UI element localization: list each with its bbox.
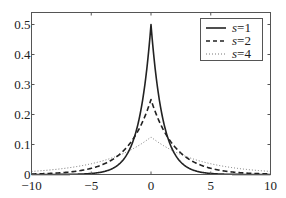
y-tick-label: 0.3 (14, 77, 30, 92)
y-tick-label: 0 (24, 167, 31, 182)
x-tick-label: −5 (84, 178, 98, 193)
y-tick-label: 0.5 (14, 17, 30, 32)
legend: s=1 s=2 s=4 (201, 19, 263, 62)
y-tick-label: 0.2 (14, 107, 30, 122)
series-s4-line (32, 137, 271, 171)
y-tick-label: 0.4 (14, 47, 31, 62)
x-tick-label: 5 (208, 178, 215, 193)
x-tick-label: 0 (148, 178, 155, 193)
line-chart: −10−50510 00.10.20.30.40.5 s=1 s=2 s=4 (0, 0, 286, 198)
x-tick-label: 10 (264, 178, 277, 193)
y-axis-tick-labels: 00.10.20.30.40.5 (14, 17, 31, 182)
x-axis-tick-labels: −10−50510 (21, 178, 277, 193)
y-tick-label: 0.1 (14, 137, 30, 152)
legend-label-s4: s=4 (232, 46, 251, 61)
